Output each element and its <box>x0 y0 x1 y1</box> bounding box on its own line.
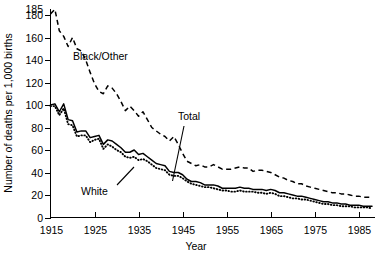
annotation-total: Total <box>178 110 200 122</box>
y-tick-label: 80 <box>31 122 43 134</box>
chart-canvas: 020406080100120140160180185 191519251935… <box>0 0 384 255</box>
y-axis-title: Number of deaths per 1,000 births <box>2 33 14 192</box>
y-tick-label: 120 <box>25 77 43 89</box>
y-tick-label: 160 <box>25 32 43 44</box>
x-tick-label: 1975 <box>304 224 328 236</box>
x-tick-label: 1955 <box>216 224 240 236</box>
y-tick-label: 100 <box>25 99 43 111</box>
y-tick-label: 140 <box>25 54 43 66</box>
y-tick-label: 185 <box>25 3 43 15</box>
x-tick-label: 1965 <box>260 224 284 236</box>
y-axis-ticks <box>45 16 51 219</box>
annotation-white: White <box>81 185 108 197</box>
annotation-black-other: Black/Other <box>73 50 128 62</box>
white-leader-line <box>117 167 134 185</box>
y-tick-label: 20 <box>31 189 43 201</box>
series-line-black-other <box>51 9 373 197</box>
x-tick-label: 1985 <box>348 224 372 236</box>
y-tick-label: 0 <box>37 212 43 224</box>
y-tick-label: 60 <box>31 144 43 156</box>
x-axis-title: Year <box>185 240 207 252</box>
y-tick-label: 40 <box>31 167 43 179</box>
y-axis-tick-labels: 020406080100120140160180185 <box>25 3 43 224</box>
x-tick-label: 1935 <box>128 224 152 236</box>
x-tick-label: 1925 <box>84 224 108 236</box>
x-axis-tick-labels: 19151925193519451955196519751985 <box>40 224 372 236</box>
x-axis-ticks <box>96 212 360 218</box>
x-tick-label: 1915 <box>40 224 64 236</box>
x-tick-label: 1945 <box>172 224 196 236</box>
infant-mortality-chart: 020406080100120140160180185 191519251935… <box>0 0 384 255</box>
